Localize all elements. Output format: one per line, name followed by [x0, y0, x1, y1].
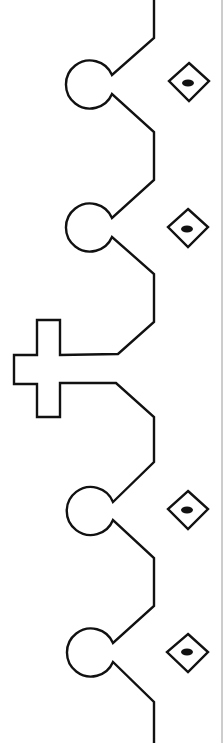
diamond-3 — [168, 491, 208, 529]
diamond-1 — [169, 63, 209, 101]
diamond-4 — [167, 634, 208, 672]
diamond-2 — [168, 209, 208, 247]
line-drawing — [0, 0, 224, 743]
main-outline — [14, 0, 154, 743]
dot-icon — [182, 80, 194, 87]
dot-icon — [181, 226, 193, 233]
dot-icon — [181, 649, 193, 656]
dot-icon — [181, 507, 193, 514]
